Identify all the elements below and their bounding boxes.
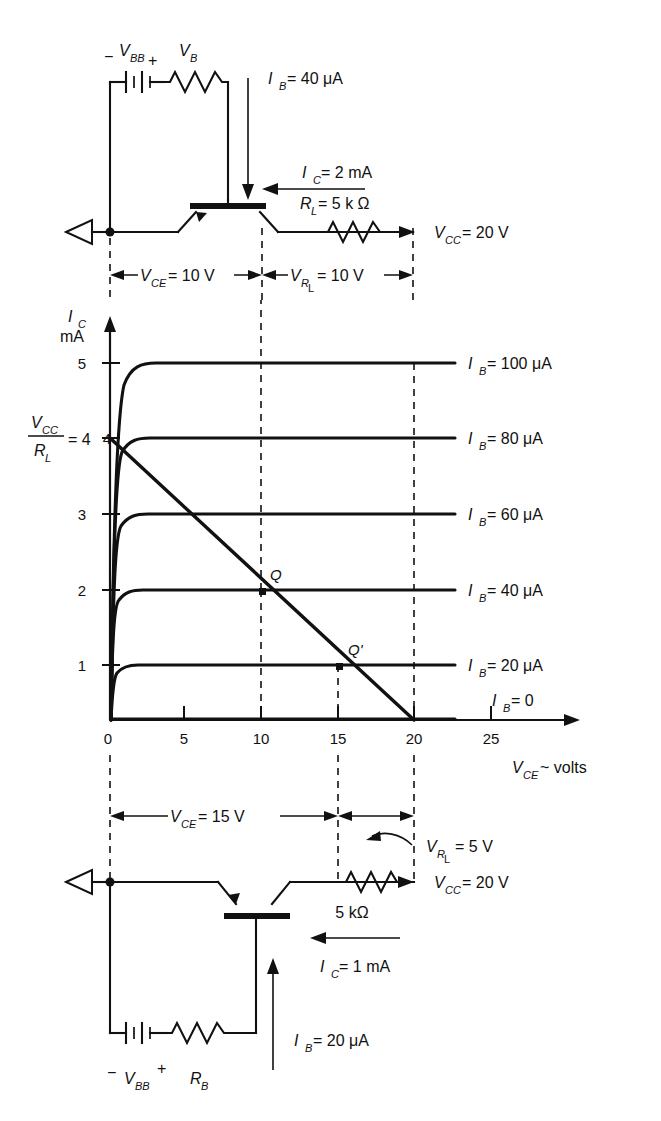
note-equals: = 4 xyxy=(68,431,91,448)
top-vbb-sub: BB xyxy=(130,52,145,64)
operating-point-q-label: Q xyxy=(270,566,282,583)
top-vcc-sub: CC xyxy=(445,234,461,246)
curve-label-ib-20ua: I B = 20 μA xyxy=(468,657,543,679)
curve-label-0-main: I xyxy=(468,355,473,372)
bottom-ground-icon xyxy=(66,870,115,894)
bottom-vbb-plus: + xyxy=(157,1060,166,1077)
curve-label-0-value: = 100 μA xyxy=(487,355,552,372)
chart-ylabel-main: I xyxy=(68,308,73,325)
bottom-ic-value: = 1 mA xyxy=(339,958,390,975)
bottom-ic-arrow-icon xyxy=(310,932,400,944)
load-line xyxy=(110,438,414,720)
top-vrl-sub2: L xyxy=(308,282,314,294)
note-numerator-sub: CC xyxy=(42,424,58,436)
curve-label-4-value: = 20 μA xyxy=(487,657,543,674)
chart-xtick-0: 0 xyxy=(104,730,112,747)
chart-xtick-10: 10 xyxy=(253,730,270,747)
bottom-vrl-sub2: L xyxy=(444,853,450,865)
curve-ib-80ua xyxy=(111,438,455,720)
curve-label-2-value: = 60 μA xyxy=(487,506,543,523)
bottom-vrl-dimension: V R L = 5 V xyxy=(338,811,493,865)
chart-ylabel-units: mA xyxy=(60,328,84,345)
top-rl-sub: L xyxy=(311,205,317,217)
curve-ib-40ua xyxy=(111,590,455,720)
chart-ytick-3: 3 xyxy=(78,506,86,523)
bottom-vbb-minus: − xyxy=(107,1064,116,1081)
top-base-resistor-icon xyxy=(164,72,228,92)
bottom-vce-value: = 15 V xyxy=(198,808,245,825)
curve-label-3-sub: B xyxy=(479,592,486,604)
curve-label-3-main: I xyxy=(468,582,473,599)
chart-xtick-20: 20 xyxy=(406,730,423,747)
chart-xtick-15: 15 xyxy=(330,730,347,747)
curve-label-2-main: I xyxy=(468,506,473,523)
top-circuit: − V BB + V B I B = 40 μA I C = 2 mA R L … xyxy=(66,42,509,300)
curve-label-2-sub: B xyxy=(479,516,486,528)
chart-xlabel-sub: CE xyxy=(523,769,539,781)
top-ic-sub: C xyxy=(313,174,321,186)
top-ib-value: = 40 μA xyxy=(287,70,343,87)
chart-xticks: 0 5 10 15 20 25 xyxy=(104,706,500,747)
transistor-load-line-figure: − V BB + V B I B = 40 μA I C = 2 mA R L … xyxy=(0,0,661,1121)
bottom-vcc-sub: CC xyxy=(445,884,461,896)
chart-xtick-25: 25 xyxy=(483,730,500,747)
bottom-ib-label: I xyxy=(294,1032,299,1049)
bottom-vcc-value: = 20 V xyxy=(462,874,509,891)
curve-label-4-sub: B xyxy=(479,667,486,679)
chart-ytick-1: 1 xyxy=(78,657,86,674)
top-ib-arrow-icon xyxy=(242,78,254,200)
top-vrl-value: = 10 V xyxy=(317,267,364,284)
curve-label-ib-100ua: I B = 100 μA xyxy=(468,355,552,377)
curve-label-4-main: I xyxy=(468,657,473,674)
bottom-vce-dimension: V CE = 15 V xyxy=(110,805,338,830)
top-rl-value: = 5 k Ω xyxy=(318,195,370,212)
top-vb-sub: B xyxy=(190,52,197,64)
bottom-ib-value: = 20 μA xyxy=(313,1032,369,1049)
bottom-ib-arrow-icon xyxy=(267,958,279,1070)
curve-ib-60ua xyxy=(111,514,455,720)
curve-label-1-main: I xyxy=(468,430,473,447)
note-denominator-sub: L xyxy=(45,452,51,464)
bottom-ic-label: I xyxy=(320,958,325,975)
chart-ytick-5: 5 xyxy=(78,355,86,372)
top-ic-label: I xyxy=(302,164,307,181)
bottom-dimensions: V CE = 15 V V R L = 5 V xyxy=(110,755,493,880)
top-ib-sub: B xyxy=(279,80,286,92)
bottom-battery-icon xyxy=(126,1023,166,1043)
top-vce-dimension: V CE = 10 V xyxy=(110,264,262,289)
curve-label-ib-80ua: I B = 80 μA xyxy=(468,430,543,452)
chart-y-intercept-note: V CC R L = 4 xyxy=(28,414,91,464)
top-ib-label: I xyxy=(268,70,273,87)
bottom-base-resistor-icon xyxy=(166,1023,256,1043)
chart-xtick-5: 5 xyxy=(180,730,188,747)
top-vcc-value: = 20 V xyxy=(462,224,509,241)
curve-label-3-value: = 40 μA xyxy=(487,582,543,599)
operating-point-q-prime-label: Q' xyxy=(348,641,364,658)
bottom-vce-sub: CE xyxy=(181,818,197,830)
top-vbb-plus: + xyxy=(148,52,157,69)
curve-label-0-sub: B xyxy=(479,365,486,377)
bottom-resistor-value: 5 kΩ xyxy=(335,904,368,921)
curve-label-1-value: = 80 μA xyxy=(487,430,543,447)
chart-xlabel-tail: ~ volts xyxy=(540,759,587,776)
curve-label-ib-40ua: I B = 40 μA xyxy=(468,582,543,604)
bottom-rb-sub: B xyxy=(201,1080,208,1092)
chart-curves xyxy=(111,363,455,720)
bottom-vrl-value: = 5 V xyxy=(455,838,493,855)
bottom-ic-sub: C xyxy=(331,968,339,980)
top-vrl-dimension: V R L = 10 V xyxy=(262,264,413,294)
curve-label-5-value: = 0 xyxy=(511,692,534,709)
characteristic-curves-chart: I C mA 5 4 3 2 1 V CC R L = 4 0 xyxy=(28,300,587,781)
top-vce-value: = 10 V xyxy=(168,267,215,284)
top-battery-icon xyxy=(110,72,164,92)
bottom-vbb-sub: BB xyxy=(135,1080,150,1092)
curve-label-ib-60ua: I B = 60 μA xyxy=(468,506,543,528)
bottom-circuit: 5 kΩ V CC = 20 V I C = 1 mA I B = 20 μA xyxy=(66,870,509,1092)
curve-label-5-main: I xyxy=(492,692,497,709)
curve-label-5-sub: B xyxy=(503,702,510,714)
top-vce-sub: CE xyxy=(151,277,167,289)
top-ground-icon xyxy=(66,220,115,244)
top-ic-value: = 2 mA xyxy=(321,164,372,181)
top-vbb-minus: − xyxy=(104,48,113,65)
curve-label-ib-0: I B = 0 xyxy=(492,692,534,714)
